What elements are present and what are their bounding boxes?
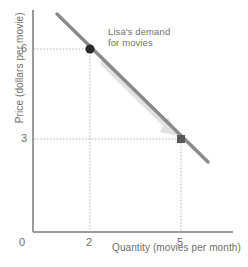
x-axis-tick-label-5: 5 [177, 236, 183, 249]
x-axis-tick-label-0: 0 [19, 236, 25, 249]
data-point-5-3 [177, 135, 185, 143]
demand-curve-chart: Price (dollars per movie) Quantity (movi… [0, 0, 248, 267]
data-point-2-6 [85, 44, 94, 53]
y-axis-tick-label-3: 3 [21, 132, 27, 145]
annotation-line-2: for movies [108, 38, 170, 49]
y-axis-title: Price (dollars per movie) [14, 8, 26, 128]
x-axis-tick-label-2: 2 [86, 236, 92, 249]
demand-curve-annotation: Lisa's demand for movies [108, 27, 170, 49]
y-axis-tick-label-6: 6 [21, 42, 27, 55]
demand-direction-arrow-icon [104, 63, 178, 136]
